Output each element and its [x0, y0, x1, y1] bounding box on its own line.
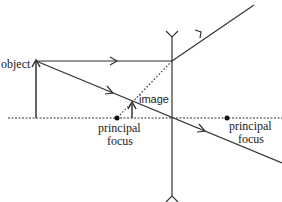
- ray-diagram: object image principal focus principal f…: [0, 0, 282, 202]
- lens-top-arrowhead-icon: [166, 31, 178, 37]
- object-label: object: [1, 57, 31, 71]
- focal-point-left: [115, 116, 120, 121]
- focus-right-label-line1: principal: [229, 119, 272, 133]
- construction-line: [117, 61, 172, 118]
- focus-left-label-line2: focus: [107, 134, 133, 148]
- image-label: image: [139, 93, 169, 105]
- refracted-ray: [172, 5, 254, 61]
- refracted-ray-arrow-icon: [195, 30, 201, 38]
- central-ray: [36, 61, 282, 163]
- focus-right-label-line2: focus: [238, 132, 264, 146]
- focus-left-label-line1: principal: [98, 121, 141, 135]
- lens-bottom-arrowhead-icon: [166, 196, 178, 202]
